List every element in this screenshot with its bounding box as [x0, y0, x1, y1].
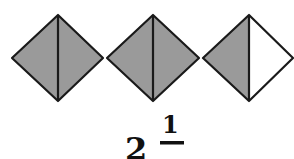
- whole-number: 2: [125, 130, 147, 159]
- diamond-1: [12, 15, 103, 101]
- numerator: 1: [162, 110, 179, 139]
- fraction-diagram: 2 1: [0, 0, 294, 159]
- diamond-3-right-half: [249, 15, 293, 101]
- diamond-1-left-half: [12, 15, 58, 101]
- diamond-2-left-half: [107, 15, 153, 101]
- diamond-1-right-half: [58, 15, 103, 101]
- diamond-2: [107, 15, 199, 101]
- fraction-bar: [160, 141, 184, 145]
- diamond-3: [203, 15, 293, 101]
- diamond-2-right-half: [153, 15, 199, 101]
- diamond-3-left-half: [203, 15, 249, 101]
